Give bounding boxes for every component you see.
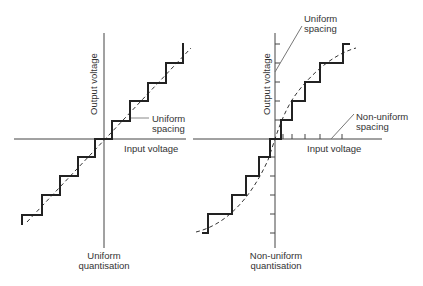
right-side-annotation-line2: spacing	[356, 121, 389, 132]
left-y-axis-label: Output voltage	[88, 53, 99, 115]
right-uniform-leader	[275, 26, 302, 72]
left-x-axis-label: Input voltage	[124, 143, 178, 154]
right-top-annotation-line2: spacing	[304, 23, 337, 34]
left-staircase	[22, 43, 183, 225]
left-annotation-line2: spacing	[152, 123, 185, 134]
right-y-axis-label: Output voltage	[261, 53, 272, 115]
left-title-line2: quantisation	[78, 260, 129, 271]
right-diagram	[193, 26, 382, 248]
right-x-axis-label: Input voltage	[307, 143, 361, 154]
left-diagram	[14, 33, 191, 248]
right-title-line2: quantisation	[250, 260, 301, 271]
